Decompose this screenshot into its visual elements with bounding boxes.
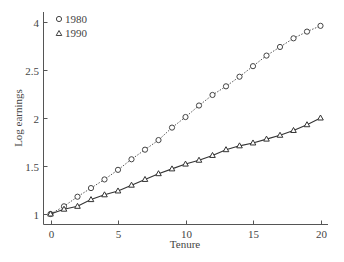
circle-marker-icon [237,74,242,79]
circle-marker-icon [102,177,107,182]
circle-marker-icon [169,125,174,130]
circle-marker-icon [223,84,228,89]
triangle-marker-icon [102,192,108,197]
triangle-marker-icon [250,140,256,145]
circle-marker-icon [183,114,188,119]
y-axis-label: Log earnings [12,89,24,147]
legend-item-1990: 1990 [56,27,87,39]
circle-marker-icon [210,92,215,97]
triangle-marker-icon [304,122,310,127]
circle-marker-icon [88,185,93,190]
x-axis-label: Tenure [170,238,200,250]
triangle-marker-icon [196,157,202,162]
circle-marker-icon [115,167,120,172]
triangle-marker-icon [223,147,229,152]
triangle-marker-icon [142,176,148,181]
circle-marker-icon [291,36,296,41]
x-tick-label: 0 [49,228,55,240]
y-tick-label: 2 [34,113,40,125]
triangle-marker-icon [318,115,324,120]
y-tick-label: 2.5 [25,65,39,77]
series-1990 [48,115,324,216]
circle-marker-icon [75,194,80,199]
series-1980 [48,23,323,216]
x-tick-label: 20 [316,228,328,240]
circle-marker-icon [142,147,147,152]
triangle-marker-icon [237,143,243,148]
circle-marker-icon [277,44,282,49]
y-tick-label: 1 [34,209,40,221]
circle-marker-icon [129,157,134,162]
triangle-marker-icon [156,171,162,176]
x-tick-label: 15 [248,228,260,240]
triangle-marker-icon [115,188,121,193]
triangle-marker-icon [75,203,81,208]
triangle-marker-icon [183,161,189,166]
y-tick-label: 4 [34,17,40,29]
circle-marker-icon [318,23,323,28]
circle-marker-icon [156,137,161,142]
triangle-marker-icon [291,127,297,132]
x-tick-label: 5 [116,228,122,240]
legend-item-1980: 1980 [56,13,87,25]
triangle-marker-icon [56,31,62,36]
triangle-marker-icon [210,152,216,157]
series-layer [48,23,324,216]
circle-marker-icon [264,53,269,58]
circle-marker-icon [304,29,309,34]
legend-label-1980: 1980 [65,13,88,25]
triangle-marker-icon [277,132,283,137]
legend-label-1990: 1990 [65,27,88,39]
triangle-marker-icon [129,182,135,187]
line-chart: 11.522.5405101520 1980 1990 Tenure Log e… [0,0,344,262]
circle-marker-icon [56,16,61,21]
triangle-marker-icon [264,136,270,141]
circle-marker-icon [250,64,255,69]
circle-marker-icon [196,103,201,108]
triangle-marker-icon [88,197,94,202]
triangle-marker-icon [169,166,175,171]
y-tick-label: 1.5 [25,161,39,173]
legend: 1980 1990 [56,13,87,39]
